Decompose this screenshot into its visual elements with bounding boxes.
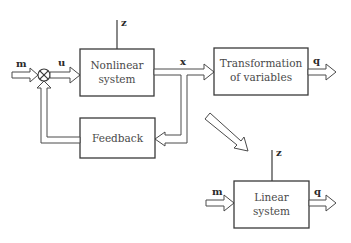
transformation-label-1: Transformation (220, 57, 303, 69)
x-signal-arrow (154, 64, 214, 146)
nonlinear-system-block: Nonlinear system (80, 49, 154, 96)
signal-label-m: m (16, 58, 27, 69)
transformation-label-2: of variables (230, 71, 292, 83)
u-arrow (50, 67, 80, 83)
linear-label-2: system (253, 205, 290, 217)
signal-label-m-linear: m (212, 186, 223, 197)
signal-label-q-linear: q (314, 186, 321, 197)
feedback-return-arrow (37, 81, 80, 143)
nonlinear-label-2: system (98, 73, 135, 85)
summing-junction-icon (38, 69, 50, 81)
block-diagram: m u z Nonlinear system x Transformation … (0, 0, 351, 243)
signal-label-q: q (313, 55, 320, 66)
signal-label-u: u (58, 57, 65, 68)
m-input-arrow-linear (206, 195, 234, 211)
linear-label-1: Linear (254, 191, 290, 203)
feedback-label: Feedback (92, 132, 144, 144)
transform-arrow (205, 113, 248, 151)
m-input-arrow (12, 68, 38, 82)
signal-label-z-linear: z (276, 147, 282, 158)
signal-label-x: x (180, 56, 187, 67)
feedback-block: Feedback (80, 118, 155, 158)
q-output-arrow (308, 64, 336, 80)
transformation-block: Transformation of variables (214, 48, 308, 95)
signal-label-z: z (121, 17, 127, 28)
nonlinear-label-1: Nonlinear (90, 59, 144, 71)
linear-system-block: Linear system (234, 181, 309, 228)
q-output-arrow-linear (309, 195, 336, 211)
